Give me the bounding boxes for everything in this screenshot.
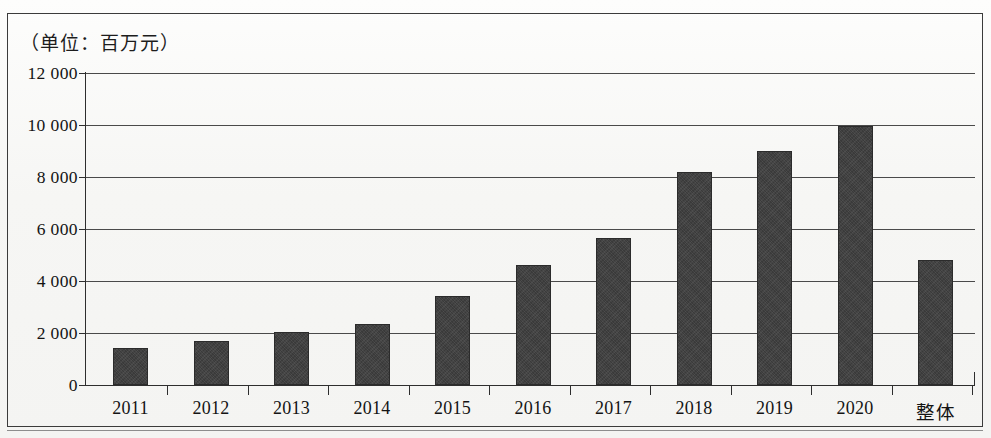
y-axis-tick-mark xyxy=(79,385,86,386)
x-axis-tick-label: 2019 xyxy=(735,398,815,419)
x-axis-tick-label: 2016 xyxy=(493,398,573,419)
bar xyxy=(274,332,309,385)
bar xyxy=(435,296,470,385)
x-axis-tick-mark xyxy=(972,386,973,395)
x-axis-tick-mark xyxy=(892,386,893,395)
page-bottom-rule xyxy=(7,430,983,431)
y-axis-tick-label: 8 000 xyxy=(37,167,78,188)
bar xyxy=(194,341,229,385)
x-axis-tick-mark xyxy=(731,386,732,395)
x-axis-tick-mark xyxy=(167,386,168,395)
y-axis-tick-label: 0 xyxy=(69,375,78,396)
y-axis-tick-label: 12 000 xyxy=(27,63,78,84)
bar xyxy=(838,126,873,385)
y-axis-tick-mark xyxy=(79,177,86,178)
y-axis-tick-mark xyxy=(79,281,86,282)
x-axis-tick-label: 2015 xyxy=(413,398,493,419)
bar xyxy=(596,238,631,385)
x-axis-tick-label: 2014 xyxy=(332,398,412,419)
bar xyxy=(918,260,953,385)
x-axis-tick-mark xyxy=(811,386,812,395)
bar xyxy=(355,324,390,385)
y-axis-tick-label: 4 000 xyxy=(37,271,78,292)
y-axis-tick-label: 10 000 xyxy=(27,115,78,136)
bar xyxy=(677,172,712,385)
y-axis-tick-label: 6 000 xyxy=(37,219,78,240)
x-axis-tick-mark xyxy=(328,386,329,395)
x-axis-right-cap xyxy=(974,372,975,386)
y-axis-tick-labels: 12 00010 0008 0006 0004 0002 0000 xyxy=(0,0,78,438)
bar xyxy=(516,265,551,385)
y-axis-tick-label: 2 000 xyxy=(37,323,78,344)
x-axis-tick-label: 2012 xyxy=(171,398,251,419)
x-axis-baseline xyxy=(85,385,975,386)
y-axis-tick-mark xyxy=(79,73,86,74)
x-axis-tick-mark xyxy=(650,386,651,395)
plot-area xyxy=(85,73,975,385)
x-axis-tick-label: 2011 xyxy=(91,398,171,419)
x-axis-tick-label: 2020 xyxy=(815,398,895,419)
x-axis-tick-label: 2013 xyxy=(252,398,332,419)
x-axis-tick-label: 2017 xyxy=(574,398,654,419)
x-axis-tick-mark xyxy=(570,386,571,395)
x-axis-tick-label: 整体 xyxy=(896,398,976,424)
x-axis-tick-mark xyxy=(248,386,249,395)
chart-figure: （单位：百万元） 12 00010 0008 0006 0004 0002 00… xyxy=(0,0,991,438)
gridline xyxy=(85,73,975,74)
bar xyxy=(757,151,792,385)
x-axis-tick-label: 2018 xyxy=(654,398,734,419)
y-axis-tick-mark xyxy=(79,125,86,126)
y-axis-tick-mark xyxy=(79,229,86,230)
x-axis-tick-mark xyxy=(409,386,410,395)
x-axis-tick-mark xyxy=(489,386,490,395)
bar xyxy=(113,348,148,385)
y-axis-tick-mark xyxy=(79,333,86,334)
